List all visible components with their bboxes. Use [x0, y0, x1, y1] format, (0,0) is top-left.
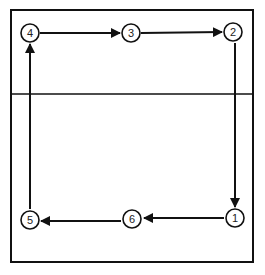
node-6: 6	[123, 210, 141, 228]
node-3: 3	[122, 24, 140, 42]
node-5-label: 5	[27, 214, 33, 226]
node-1: 1	[226, 209, 244, 227]
node-5: 5	[21, 211, 39, 229]
node-1-label: 1	[232, 212, 238, 224]
node-6-label: 6	[129, 213, 135, 225]
node-2: 2	[224, 23, 242, 41]
rotation-diagram: 4 3 2 1 6 5	[0, 0, 265, 275]
node-4-label: 4	[27, 27, 33, 39]
arrow-3-to-2	[141, 32, 222, 33]
node-4: 4	[21, 24, 39, 42]
node-3-label: 3	[128, 27, 134, 39]
node-2-label: 2	[230, 26, 236, 38]
